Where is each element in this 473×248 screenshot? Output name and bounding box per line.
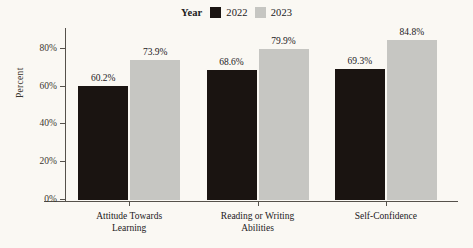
y-tick-0: 0% <box>65 199 66 200</box>
bar-2023-2[interactable] <box>387 40 437 200</box>
bar-value-label: 68.6% <box>219 57 244 67</box>
y-axis-title: Percent <box>15 67 25 98</box>
y-tick-mark <box>60 199 65 200</box>
chart-legend: Year 2022 2023 <box>0 4 473 20</box>
y-tick-4: 80% <box>65 48 66 49</box>
plot-area: 0%20%40%60%80%60.2%73.9%68.6%79.9%69.3%8… <box>65 30 450 200</box>
y-tick-label: 80% <box>40 43 57 53</box>
y-tick-label: 0% <box>44 194 57 204</box>
y-tick-mark <box>60 123 65 124</box>
x-category-label-2: Self-Confidence <box>355 210 417 222</box>
x-category-label-1: Reading or Writing Abilities <box>221 210 294 234</box>
y-tick-label: 20% <box>40 156 57 166</box>
y-tick-mark <box>60 48 65 49</box>
x-tick-0 <box>129 201 130 206</box>
legend-swatch-2022 <box>210 7 221 18</box>
legend-label-2023: 2023 <box>271 7 292 18</box>
bar-value-label: 84.8% <box>400 27 425 37</box>
legend-label-2022: 2022 <box>226 7 247 18</box>
x-axis-line <box>44 201 458 202</box>
x-tick-1 <box>258 201 259 206</box>
y-tick-label: 60% <box>40 81 57 91</box>
bar-value-label: 60.2% <box>91 73 116 83</box>
bar-value-label: 73.9% <box>143 47 168 57</box>
bar-2022-0[interactable] <box>78 86 128 200</box>
y-tick-1: 20% <box>65 161 66 162</box>
y-tick-mark <box>60 161 65 162</box>
x-tick-2 <box>386 201 387 206</box>
bar-chart-figure: Year 2022 2023 Percent 0%20%40%60%80%60.… <box>0 0 473 248</box>
legend-item-2022[interactable]: 2022 <box>210 7 247 18</box>
bar-2022-2[interactable] <box>335 69 385 200</box>
bar-2023-1[interactable] <box>259 49 309 200</box>
bar-value-label: 79.9% <box>271 36 296 46</box>
bar-2023-0[interactable] <box>130 60 180 200</box>
y-tick-label: 40% <box>40 118 57 128</box>
y-tick-3: 60% <box>65 86 66 87</box>
legend-item-2023[interactable]: 2023 <box>255 7 292 18</box>
legend-swatch-2023 <box>255 7 266 18</box>
legend-title: Year <box>181 7 202 18</box>
bar-value-label: 69.3% <box>348 56 373 66</box>
y-tick-mark <box>60 86 65 87</box>
y-tick-2: 40% <box>65 123 66 124</box>
x-category-label-0: Attitude Towards Learning <box>96 210 162 234</box>
bar-2022-1[interactable] <box>207 70 257 200</box>
